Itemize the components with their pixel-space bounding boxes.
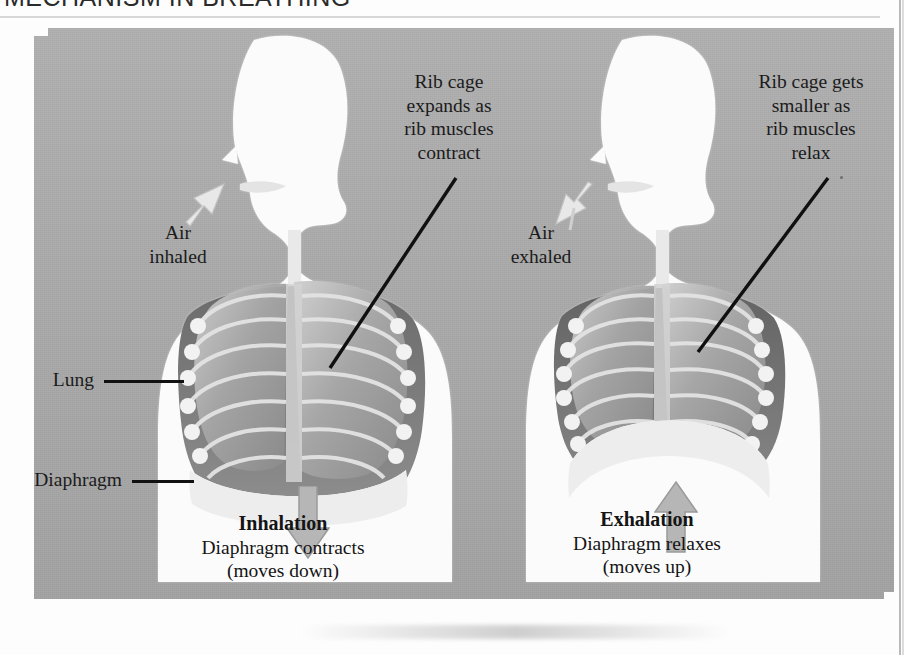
panel-corner-artifact-br bbox=[884, 592, 894, 599]
figure-panel: Rib cage expands as rib muscles contract… bbox=[34, 28, 894, 599]
panel-corner-artifact-tl bbox=[34, 28, 48, 36]
page-edge-inner bbox=[899, 0, 901, 655]
page-canvas: MECHANISM IN BREATHING bbox=[0, 0, 904, 655]
lung-label: Lung bbox=[34, 368, 94, 392]
diaphragm-label: Diaphragm bbox=[34, 468, 122, 492]
figure-inhalation: Rib cage expands as rib muscles contract… bbox=[96, 28, 516, 599]
air-exhaled-label: Air exhaled bbox=[482, 221, 600, 268]
lung-leader-line bbox=[104, 380, 184, 383]
title-underline-artifact bbox=[0, 16, 880, 18]
ribcage-note-exhalation: Rib cage gets smaller as rib muscles rel… bbox=[716, 70, 894, 164]
page-title: MECHANISM IN BREATHING bbox=[4, 0, 351, 12]
ribcage-callout-line-right bbox=[686, 176, 836, 366]
scan-smudge bbox=[300, 625, 730, 639]
figure-exhalation: Rib cage gets smaller as rib muscles rel… bbox=[464, 28, 884, 599]
scan-speck bbox=[840, 176, 843, 179]
ribcage-callout-line-left bbox=[324, 176, 464, 376]
caption-inhalation: Inhalation Diaphragm contracts (moves do… bbox=[118, 512, 448, 582]
air-inhaled-label: Air inhaled bbox=[122, 221, 234, 268]
diaphragm-leader-line bbox=[132, 480, 194, 483]
caption-exhalation: Exhalation Diaphragm relaxes (moves up) bbox=[482, 508, 812, 578]
